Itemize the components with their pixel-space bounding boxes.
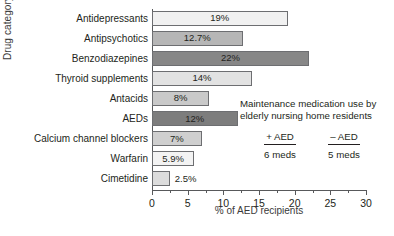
x-tick-major: [223, 190, 224, 195]
x-tick-major: [259, 190, 260, 195]
x-axis-title: % of AED recipients: [152, 205, 366, 216]
bar: [152, 171, 170, 186]
bar-value-label: 8%: [174, 91, 188, 105]
legend-header-row: + AED– AED: [248, 130, 376, 145]
x-tick-major: [152, 190, 153, 195]
legend-value-row: 6 meds5 meds: [248, 145, 376, 161]
bar-value-label: 2.5%: [175, 172, 197, 186]
bar-value-label: 12%: [185, 112, 204, 126]
legend-header-cell: + AED: [248, 130, 312, 145]
bar-value-label: 12.7%: [184, 31, 211, 45]
bar-value-label: 22%: [221, 51, 240, 65]
x-tick-minor: [206, 190, 207, 193]
annotation-text: Maintenance medication use by elderly nu…: [240, 98, 390, 121]
bar-row: 12.7%: [152, 29, 366, 49]
bar-value-label: 14%: [192, 71, 211, 85]
bar-row: 22%: [152, 49, 366, 69]
category-label: Antacids: [110, 93, 148, 105]
legend-header-text: + AED: [264, 130, 296, 145]
legend-value-cell: 5 meds: [312, 145, 376, 161]
x-tick-major: [366, 190, 367, 195]
x-tick-major: [188, 190, 189, 195]
category-label: Warfarin: [111, 153, 148, 165]
bar-row: 19%: [152, 9, 366, 29]
bar-row: 14%: [152, 69, 366, 89]
category-label: Benzodiazepines: [72, 53, 148, 65]
bar-value-label: 7%: [170, 132, 184, 146]
category-label: Antidepressants: [76, 13, 148, 25]
bar-value-label: 19%: [210, 11, 229, 25]
legend-value-cell: 6 meds: [248, 145, 312, 161]
legend-header-cell: – AED: [312, 130, 376, 145]
bar-value-label: 5.9%: [162, 152, 184, 166]
x-tick-major: [295, 190, 296, 195]
x-tick-minor: [170, 190, 171, 193]
category-label: Thyroid supplements: [55, 73, 148, 85]
x-tick-major: [330, 190, 331, 195]
category-label: Cimetidine: [101, 173, 148, 185]
chart-figure: Drug category AntidepressantsAntipsychot…: [0, 0, 394, 236]
x-tick-minor: [348, 190, 349, 193]
x-tick-minor: [313, 190, 314, 193]
x-tick-minor: [277, 190, 278, 193]
category-label: Antipsychotics: [84, 33, 148, 45]
category-label: Calcium channel blockers: [34, 133, 148, 145]
bar-row: 2.5%: [152, 170, 366, 190]
x-tick-minor: [241, 190, 242, 193]
legend-header-text: – AED: [328, 130, 359, 145]
y-axis-title: Drug category: [2, 0, 16, 78]
annotation-legend-table: + AED– AED 6 meds5 meds: [248, 130, 376, 161]
category-label: AEDs: [122, 113, 148, 125]
annotation-block: Maintenance medication use by elderly nu…: [240, 98, 390, 161]
